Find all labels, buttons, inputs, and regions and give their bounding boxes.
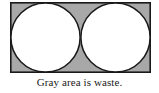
- figure-root: Gray area is waste.: [0, 0, 159, 93]
- sheet-rectangle: [10, 2, 151, 73]
- sheet-diagram-svg: [10, 2, 151, 73]
- right-circle: [81, 3, 150, 72]
- left-circle: [11, 3, 80, 72]
- figure-caption: Gray area is waste.: [0, 75, 159, 89]
